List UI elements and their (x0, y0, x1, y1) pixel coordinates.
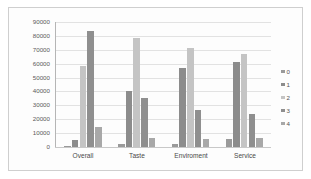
legend-swatch-icon (281, 122, 285, 126)
bar-group (56, 22, 110, 147)
gridline (55, 147, 271, 148)
bar-group (217, 22, 271, 147)
y-axis-tick-label: 40000 (33, 88, 50, 94)
x-axis-label: Enviroment (164, 151, 218, 165)
bar[interactable] (141, 98, 148, 147)
legend-label: 0 (287, 68, 290, 75)
bar[interactable] (64, 146, 71, 147)
bar[interactable] (187, 48, 194, 147)
bar[interactable] (233, 62, 240, 147)
bar-group (164, 22, 218, 147)
chart-legend: 01234 (281, 65, 311, 130)
bar[interactable] (256, 138, 263, 147)
bar[interactable] (249, 114, 256, 147)
bar[interactable] (80, 66, 87, 147)
chart-card: 9000080000700006000050000400003000020000… (0, 0, 311, 179)
x-axis-label: Service (218, 151, 272, 165)
bar[interactable] (172, 144, 179, 147)
bar[interactable] (95, 127, 102, 147)
legend-swatch-icon (281, 70, 285, 74)
bar[interactable] (118, 144, 125, 147)
y-axis-tick-label: 80000 (33, 33, 50, 39)
x-axis-label: Taste (110, 151, 164, 165)
legend-label: 3 (287, 107, 290, 114)
bar[interactable] (203, 139, 210, 147)
legend-label: 1 (287, 81, 290, 88)
bar[interactable] (87, 31, 94, 147)
legend-item[interactable]: 0 (281, 65, 311, 78)
y-axis-tick-label: 60000 (33, 61, 50, 67)
plot-area (55, 22, 271, 147)
legend-swatch-icon (281, 83, 285, 87)
bar[interactable] (149, 138, 156, 147)
bar[interactable] (126, 91, 133, 147)
legend-swatch-icon (281, 109, 285, 113)
y-axis-tick-label: 0 (47, 144, 50, 150)
bar[interactable] (226, 139, 233, 147)
legend-item[interactable]: 3 (281, 104, 311, 117)
bar[interactable] (179, 68, 186, 147)
y-axis-tick-label: 50000 (33, 75, 50, 81)
bar[interactable] (241, 54, 248, 147)
bar-group (110, 22, 164, 147)
y-axis-tick-labels: 9000080000700006000050000400003000020000… (9, 22, 53, 147)
legend-item[interactable]: 2 (281, 91, 311, 104)
bar[interactable] (195, 110, 202, 147)
x-axis-category-labels: OverallTasteEnviromentService (56, 151, 272, 165)
legend-swatch-icon (281, 96, 285, 100)
y-axis-tick-label: 70000 (33, 47, 50, 53)
legend-item[interactable]: 4 (281, 117, 311, 130)
legend-label: 4 (287, 120, 290, 127)
bar[interactable] (72, 140, 79, 147)
legend-item[interactable]: 1 (281, 78, 311, 91)
bar[interactable] (133, 38, 140, 147)
chart-frame: 9000080000700006000050000400003000020000… (8, 7, 303, 171)
y-axis-tick-label: 10000 (33, 130, 50, 136)
x-axis-label: Overall (56, 151, 110, 165)
y-axis-tick-label: 90000 (33, 19, 50, 25)
y-axis-tick-label: 30000 (33, 102, 50, 108)
legend-label: 2 (287, 94, 290, 101)
bar-groups (56, 22, 271, 147)
y-axis-tick-label: 20000 (33, 116, 50, 122)
